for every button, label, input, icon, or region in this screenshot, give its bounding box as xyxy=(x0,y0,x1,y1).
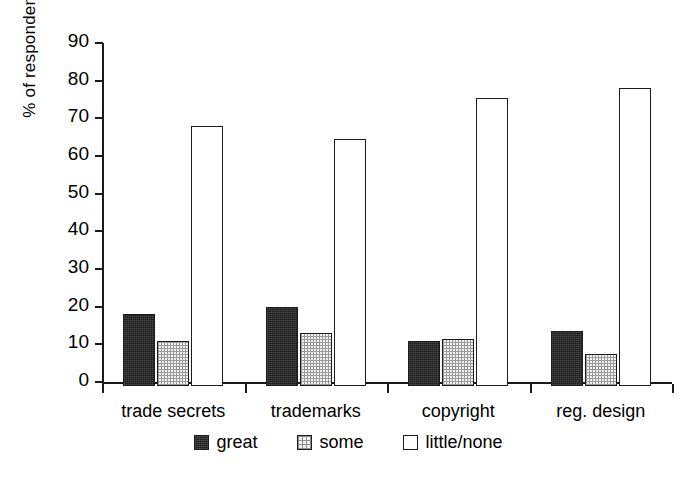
legend-label: great xyxy=(216,432,257,452)
x-axis-category-label: trade secrets xyxy=(102,400,245,422)
bar-great xyxy=(266,307,298,386)
legend-label: little/none xyxy=(425,432,502,452)
bar-some xyxy=(157,341,189,386)
y-axis-tick-label: 60 xyxy=(49,144,89,164)
bar-great xyxy=(408,341,440,386)
chart-legend: greatsomelittle/none xyxy=(0,432,697,452)
y-axis-tick-label: 20 xyxy=(49,295,89,315)
x-axis-category-label: copyright xyxy=(387,400,530,422)
y-axis-tick-label: 50 xyxy=(49,182,89,202)
legend-swatch-icon xyxy=(403,435,418,450)
x-axis-category-label: trademarks xyxy=(245,400,388,422)
legend-swatch-icon xyxy=(194,435,209,450)
bar-group xyxy=(530,42,673,388)
bar-some xyxy=(442,339,474,386)
legend-swatch-icon xyxy=(297,435,312,450)
y-axis-tick-label: 70 xyxy=(49,106,89,126)
bar-group xyxy=(102,42,245,388)
bar-none xyxy=(334,139,366,386)
x-axis-tick xyxy=(672,384,674,393)
legend-item: great xyxy=(194,432,257,452)
legend-item: some xyxy=(297,432,363,452)
bar-great xyxy=(551,331,583,386)
y-axis-tick-label: 30 xyxy=(49,257,89,277)
bar-group xyxy=(387,42,530,388)
legend-label: some xyxy=(319,432,363,452)
bar-chart: % of respondents 0102030405060708090 tra… xyxy=(0,0,697,490)
x-axis-category-label: reg. design xyxy=(530,400,673,422)
bar-group xyxy=(245,42,388,388)
plot-area: 0102030405060708090 trade secretstradema… xyxy=(102,38,672,388)
bar-great xyxy=(123,314,155,386)
y-axis-tick-label: 80 xyxy=(49,69,89,89)
y-axis-tick-label: 10 xyxy=(49,332,89,352)
bar-some xyxy=(585,354,617,386)
bar-none xyxy=(476,98,508,386)
y-axis-tick-label: 90 xyxy=(49,31,89,51)
bar-none xyxy=(191,126,223,386)
y-axis-tick-label: 40 xyxy=(49,219,89,239)
bar-some xyxy=(300,333,332,386)
y-axis-tick-label: 0 xyxy=(49,370,89,390)
y-axis-title: % of respondents xyxy=(10,0,50,160)
legend-item: little/none xyxy=(403,432,502,452)
bar-none xyxy=(619,88,651,386)
